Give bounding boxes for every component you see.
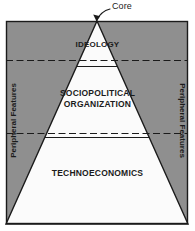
diagram-graphics — [0, 0, 195, 231]
peripheral-features-label-right: Peripheral Features — [178, 61, 187, 181]
tier-label-sociopolitical-line2: ORGANIZATION — [0, 99, 195, 110]
peripheral-features-label-left: Peripheral Features — [9, 61, 18, 181]
tier-label-technoeconomics: TECHNOECONOMICS — [0, 168, 195, 178]
tier-label-ideology: IDEOLOGY — [0, 40, 195, 49]
tier-label-sociopolitical-line1: SOCIOPOLITICAL — [60, 88, 135, 98]
tier-label-sociopolitical: SOCIOPOLITICAL ORGANIZATION — [0, 88, 195, 110]
core-leader-line — [97, 9, 111, 21]
core-callout-label: Core — [112, 1, 132, 11]
cultural-system-pyramid-diagram: Core IDEOLOGY SOCIOPOLITICAL ORGANIZATIO… — [0, 0, 195, 231]
